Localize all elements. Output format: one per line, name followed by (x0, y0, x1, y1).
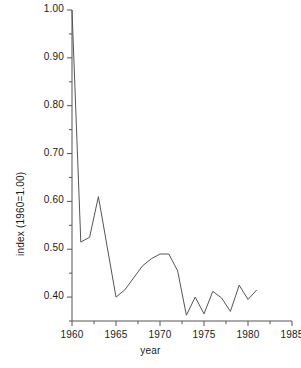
y-axis-ticks (67, 10, 72, 321)
chart-figure: 0.400.500.600.700.800.901.00 19601965197… (0, 0, 301, 368)
y-tick-label: 0.40 (24, 290, 64, 301)
y-tick-label: 0.80 (24, 99, 64, 110)
y-tick-label: 0.50 (24, 242, 64, 253)
x-tick-label: 1970 (140, 329, 180, 340)
x-tick-label: 1965 (96, 329, 136, 340)
x-axis-ticks (72, 321, 292, 326)
x-tick-label: 1960 (52, 329, 92, 340)
x-tick-label: 1985 (272, 329, 301, 340)
y-axis-title: index (1960=1.00) (2, 108, 20, 258)
y-tick-label: 0.90 (24, 51, 64, 62)
data-line-index (72, 10, 257, 315)
y-tick-label: 0.60 (24, 194, 64, 205)
y-tick-label: 1.00 (24, 3, 64, 14)
y-axis-title-text: index (1960=1.00) (15, 172, 26, 256)
x-axis-title: year (0, 345, 301, 356)
x-tick-label: 1980 (228, 329, 268, 340)
axis-lines (72, 10, 292, 321)
x-tick-label: 1975 (184, 329, 224, 340)
data-series-group (72, 10, 257, 315)
y-tick-label: 0.70 (24, 147, 64, 158)
